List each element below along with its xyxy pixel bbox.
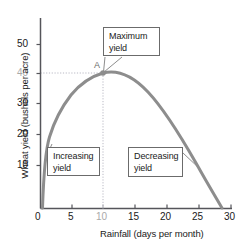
y-axis-title: Wheat yield (bushels per acre) [19,36,30,196]
x-tick-label-15: 15 [128,211,139,222]
point-a-label: A [94,60,100,70]
leader-line-maximum-2 [104,57,122,72]
yield-curve [43,72,223,208]
x-axis-title: Rainfall (days per month) [100,228,204,239]
callout-decreasing-yield: Decreasing yield [128,147,183,177]
callout-increasing-yield: Increasing yield [47,147,100,176]
x-tick-label-5: 5 [68,211,74,222]
x-tick-label-0: 0 [35,211,41,222]
leader-line-maximum [104,57,106,72]
x-tick-label-30: 30 [224,211,235,222]
x-tick-label-20: 20 [160,211,171,222]
chart-figure: A Maximum yield Increasing yield Decreas… [0,0,246,248]
x-tick-label-25: 25 [192,211,203,222]
callout-maximum-yield: Maximum yield [103,27,160,56]
x-tick-label-10: 10 [96,211,107,222]
